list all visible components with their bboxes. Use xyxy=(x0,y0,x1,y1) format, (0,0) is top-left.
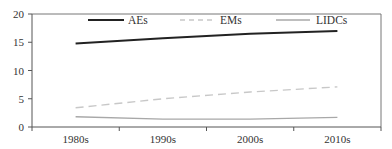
legend: AEsEMsLIDCs xyxy=(88,14,348,26)
x-axis-ticks: 1980s1990s2000s2010s xyxy=(32,127,381,145)
y-tick-label: 20 xyxy=(13,8,25,20)
series-lines xyxy=(76,31,338,119)
series-line-lidcs xyxy=(76,117,338,119)
y-tick-label: 0 xyxy=(19,121,25,133)
line-chart: 05101520 1980s1990s2000s2010s AEsEMsLIDC… xyxy=(0,0,392,149)
y-tick-label: 10 xyxy=(13,65,25,77)
series-line-ems xyxy=(76,87,338,108)
x-tick-label: 1980s xyxy=(62,133,88,145)
legend-label-aes: AEs xyxy=(128,14,148,26)
y-axis-ticks: 05101520 xyxy=(13,8,32,133)
series-line-aes xyxy=(76,31,338,43)
y-tick-label: 5 xyxy=(19,93,25,105)
y-tick-label: 15 xyxy=(13,36,25,48)
x-tick-label: 1990s xyxy=(150,133,176,145)
x-tick-label: 2010s xyxy=(324,133,350,145)
x-tick-label: 2000s xyxy=(237,133,263,145)
legend-label-ems: EMs xyxy=(220,14,242,26)
legend-label-lidcs: LIDCs xyxy=(316,14,348,26)
